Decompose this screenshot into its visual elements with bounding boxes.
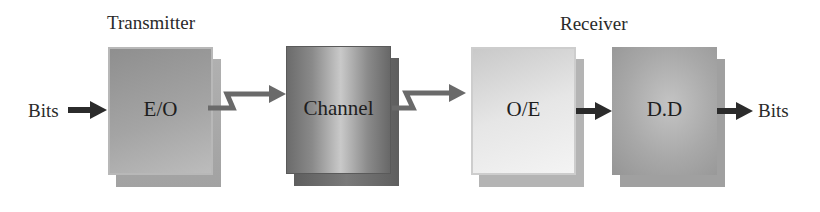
connections-layer xyxy=(0,0,820,212)
input-arrow-icon xyxy=(68,101,107,119)
output-arrow-icon xyxy=(717,102,753,120)
oe-to-dd-arrow-icon xyxy=(576,102,612,120)
eo-to-channel-zigzag-arrow-icon xyxy=(208,85,286,108)
channel-to-oe-zigzag-arrow-icon xyxy=(392,84,466,108)
